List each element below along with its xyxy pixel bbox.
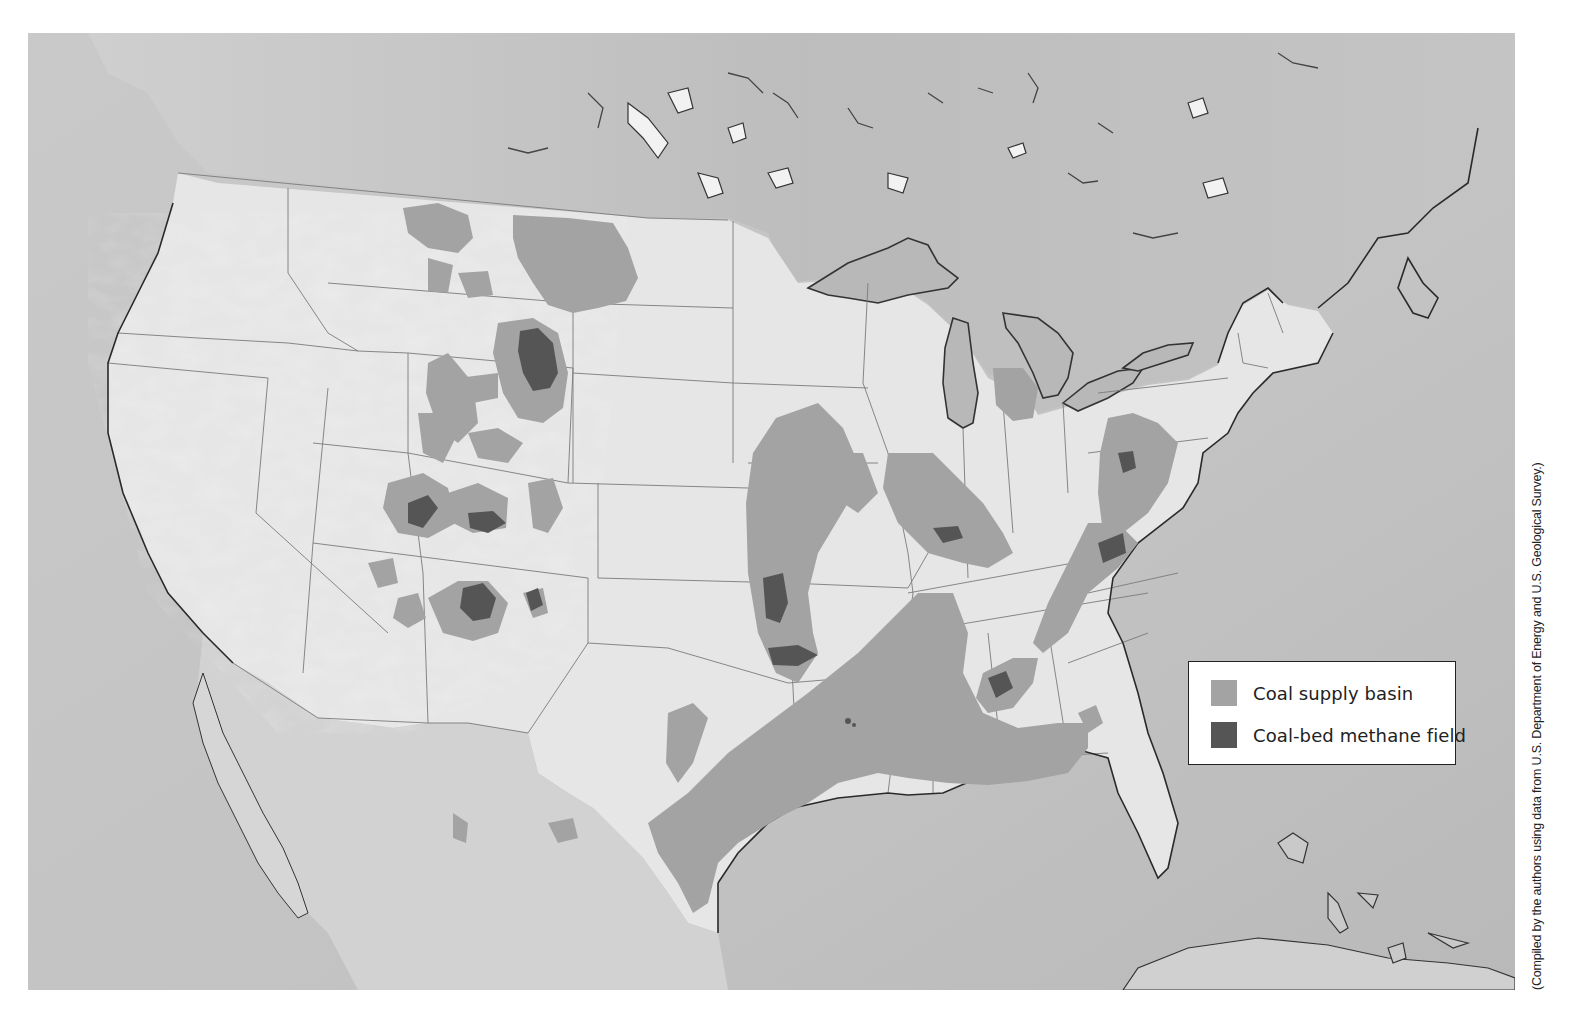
map-canvas (28, 33, 1515, 990)
map-legend: Coal supply basin Coal-bed methane field (1188, 661, 1456, 765)
map-frame (28, 33, 1515, 990)
legend-item-coal-bed-methane-field: Coal-bed methane field (1211, 722, 1466, 748)
legend-label: Coal-bed methane field (1253, 725, 1466, 746)
coal-bed-methane-swatch (1211, 722, 1237, 748)
legend-label: Coal supply basin (1253, 683, 1413, 704)
legend-item-coal-supply-basin: Coal supply basin (1211, 680, 1413, 706)
source-credit: (Compiled by the authors using data from… (1530, 462, 1544, 990)
coal-supply-basin-swatch (1211, 680, 1237, 706)
